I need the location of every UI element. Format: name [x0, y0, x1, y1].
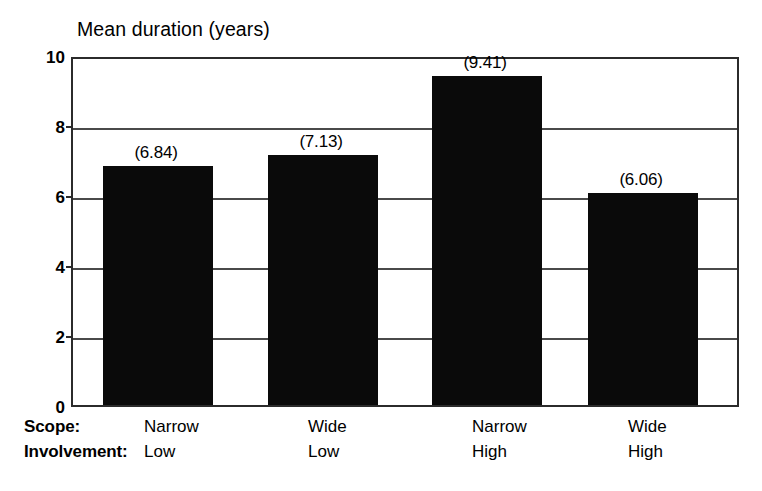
y-axis-tick-label: 6	[19, 189, 65, 206]
bar-value-label: (6.06)	[586, 171, 696, 188]
category-axis-table: Scope:NarrowWideNarrowWideInvolvement:Lo…	[0, 414, 762, 474]
category-cell: Narrow	[144, 418, 199, 435]
y-axis-tick-label: 2	[19, 329, 65, 346]
bar-value-label: (7.13)	[266, 133, 376, 150]
category-row: Involvement:LowLowHighHigh	[0, 439, 762, 464]
y-axis-tick-label: 4	[19, 259, 65, 276]
y-axis-tick-label: 10	[19, 49, 65, 66]
category-row-header: Scope:	[24, 418, 80, 435]
category-cell: Low	[308, 443, 339, 460]
chart-title: Mean duration (years)	[77, 20, 270, 40]
bar-value-label: (6.84)	[101, 144, 211, 161]
bar	[103, 166, 213, 405]
category-cell: Wide	[628, 418, 667, 435]
category-cell: Wide	[308, 418, 347, 435]
bar	[268, 155, 378, 405]
bar-value-label: (9.41)	[430, 54, 540, 71]
category-cell: High	[472, 443, 507, 460]
category-cell: Narrow	[472, 418, 527, 435]
bar-chart-figure: Mean duration (years) 1086420 (6.84)(7.1…	[0, 0, 762, 491]
y-axis-tick-label: 8	[19, 119, 65, 136]
plot-area	[71, 57, 739, 407]
category-cell: Low	[144, 443, 175, 460]
category-row: Scope:NarrowWideNarrowWide	[0, 414, 762, 439]
bar	[588, 193, 698, 405]
gridline	[73, 128, 737, 130]
bar	[432, 76, 542, 405]
category-cell: High	[628, 443, 663, 460]
category-row-header: Involvement:	[24, 443, 128, 460]
